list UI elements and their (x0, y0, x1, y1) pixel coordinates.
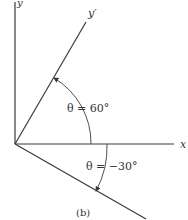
angle-label-minus-30: θ = −30° (86, 160, 138, 173)
rotated-axis-label: y′ (87, 7, 97, 20)
x-axis-label: x (180, 138, 187, 151)
figure-caption: (b) (76, 207, 90, 218)
rotation-angle-diagram: y y′ x θ = 60° θ = −30° (b) (0, 0, 188, 220)
angle-label-60: θ = 60° (67, 102, 109, 115)
y-axis-label: y (16, 0, 23, 8)
rotated-axis-60 (15, 22, 86, 144)
